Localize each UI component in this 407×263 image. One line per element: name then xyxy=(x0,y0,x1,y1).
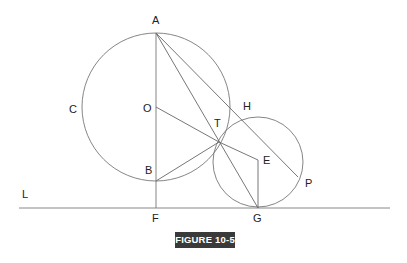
label-f: F xyxy=(152,213,159,224)
label-e: E xyxy=(263,155,270,166)
label-t: T xyxy=(214,118,221,129)
figure-caption: FIGURE 10-5 xyxy=(175,232,235,248)
label-h: H xyxy=(243,101,251,112)
label-b: B xyxy=(145,165,152,176)
label-l: L xyxy=(22,189,28,200)
geometry-diagram xyxy=(0,0,407,263)
label-c: C xyxy=(69,104,77,115)
segment-bt xyxy=(156,142,219,181)
label-a: A xyxy=(152,15,159,26)
label-p: P xyxy=(305,178,312,189)
label-g: G xyxy=(253,213,262,224)
label-o: O xyxy=(143,103,152,114)
